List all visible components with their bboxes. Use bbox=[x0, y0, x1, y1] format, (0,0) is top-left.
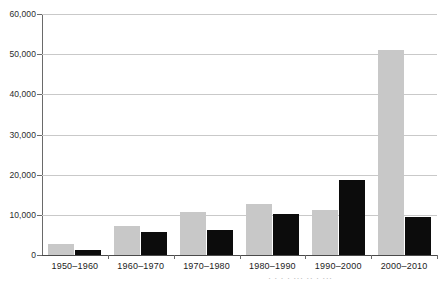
bar bbox=[114, 226, 140, 255]
x-tick-mark bbox=[240, 255, 241, 259]
bar bbox=[141, 232, 167, 255]
x-tick-mark bbox=[371, 255, 372, 259]
y-tick-label: 10,000 bbox=[0, 210, 36, 220]
y-axis-labels: 010,00020,00030,00040,00050,00060,000 bbox=[0, 0, 36, 283]
bar-chart: 010,00020,00030,00040,00050,00060,000 19… bbox=[0, 0, 439, 283]
y-tick-label: 0 bbox=[0, 250, 36, 260]
bar bbox=[273, 214, 299, 255]
bar-groups bbox=[42, 14, 437, 255]
bar bbox=[75, 250, 101, 255]
bar bbox=[246, 204, 272, 255]
bar bbox=[180, 212, 206, 255]
y-tick-mark bbox=[37, 54, 42, 55]
x-tick-mark bbox=[305, 255, 306, 259]
y-tick-label: 40,000 bbox=[0, 89, 36, 99]
x-tick-label: 1960–1970 bbox=[117, 261, 164, 271]
y-tick-mark bbox=[37, 135, 42, 136]
y-tick-mark bbox=[37, 14, 42, 15]
bar bbox=[312, 210, 338, 255]
y-tick-mark bbox=[37, 175, 42, 176]
y-tick-label: 30,000 bbox=[0, 130, 36, 140]
bar bbox=[378, 50, 404, 255]
y-tick-label: 60,000 bbox=[0, 9, 36, 19]
x-tick-mark bbox=[437, 255, 438, 259]
y-tick-label: 50,000 bbox=[0, 49, 36, 59]
x-tick-label: 1950–1960 bbox=[51, 261, 98, 271]
bar bbox=[339, 180, 365, 256]
x-tick-label: 1970–1980 bbox=[183, 261, 230, 271]
y-tick-mark bbox=[37, 215, 42, 216]
bar bbox=[48, 244, 74, 255]
cropped-caption-artifact: · · · · ··· ·· · ··· bbox=[268, 273, 439, 283]
y-tick-mark bbox=[37, 255, 42, 256]
y-tick-mark bbox=[37, 94, 42, 95]
x-tick-label: 2000–2010 bbox=[381, 261, 428, 271]
plot-area bbox=[42, 14, 437, 255]
bar bbox=[207, 230, 233, 255]
bar bbox=[405, 217, 431, 255]
x-tick-label: 1980–1990 bbox=[249, 261, 296, 271]
x-tick-label: 1990–2000 bbox=[315, 261, 362, 271]
x-tick-mark bbox=[174, 255, 175, 259]
x-tick-mark bbox=[108, 255, 109, 259]
y-tick-label: 20,000 bbox=[0, 170, 36, 180]
